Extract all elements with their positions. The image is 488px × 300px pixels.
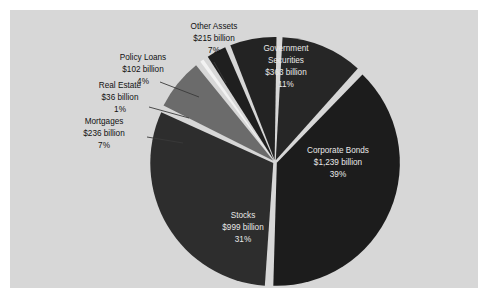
stocks-label-value: $999 billion: [222, 223, 264, 232]
slice-label-real-estate: Real Estate $36 billion 1%: [99, 81, 142, 114]
pie-chart: Government Securities $363 billion 11% C…: [0, 0, 488, 300]
stocks-label-name: Stocks: [231, 211, 256, 220]
policy-loans-label-value: $102 billion: [122, 65, 164, 74]
slice-label-mortgages: Mortgages $236 billion 7%: [83, 117, 125, 150]
gov-sec-label-value: $363 billion: [265, 68, 307, 77]
stocks-label-percent: 31%: [235, 235, 251, 244]
mortgages-label-value: $236 billion: [83, 129, 125, 138]
mortgages-label-name: Mortgages: [85, 117, 124, 126]
real-estate-label-percent: 1%: [114, 105, 126, 114]
gov-sec-label-line2: Securities: [268, 56, 304, 65]
gov-sec-label-percent: 11%: [278, 80, 294, 89]
corp-bonds-label-percent: 39%: [330, 170, 346, 179]
slice-label-other-assets: Other Assets $215 billion 7%: [191, 22, 238, 55]
real-estate-label-value: $36 billion: [102, 93, 139, 102]
other-assets-label-name: Other Assets: [191, 22, 238, 31]
corp-bonds-label-value: $1,239 billion: [314, 158, 363, 167]
policy-loans-label-name: Policy Loans: [120, 53, 166, 62]
gov-sec-label-line1: Government: [263, 44, 309, 53]
other-assets-label-value: $215 billion: [193, 34, 235, 43]
other-assets-label-percent: 7%: [208, 46, 220, 55]
figure-canvas: Government Securities $363 billion 11% C…: [0, 0, 488, 300]
mortgages-label-percent: 7%: [98, 141, 110, 150]
corp-bonds-label-name: Corporate Bonds: [307, 146, 369, 155]
real-estate-label-name: Real Estate: [99, 81, 142, 90]
